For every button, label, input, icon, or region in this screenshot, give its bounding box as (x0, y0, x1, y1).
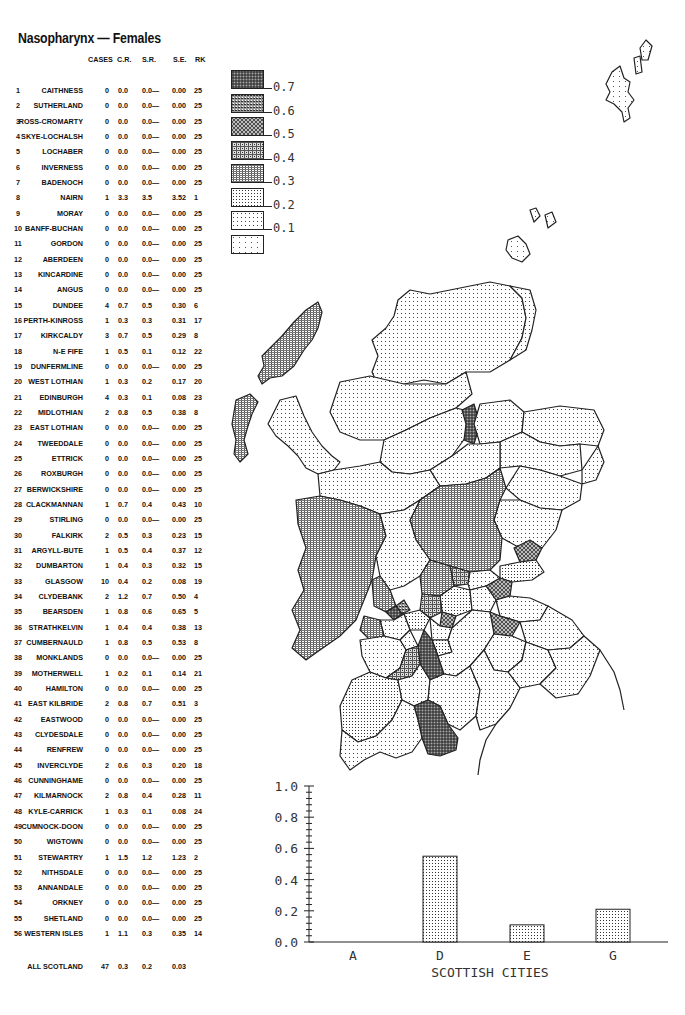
cell-cases: 0 (99, 837, 109, 846)
cell-cr: 0.0 (118, 255, 128, 264)
cell-num: 27 (10, 485, 26, 494)
cell-cases: 0 (99, 132, 109, 141)
cell-rk: 25 (194, 255, 202, 264)
cell-cr: 0.3 (118, 807, 128, 816)
cell-cr: 1.2 (118, 592, 128, 601)
cell-cases: 1 (99, 347, 109, 356)
cell-rk: 21 (194, 669, 202, 678)
table-row: 54ORKNEY00.00.0—0.0025 (0, 898, 220, 910)
cell-cases: 0 (99, 362, 109, 371)
cell-se: 0.00 (172, 730, 186, 739)
cell-num: 8 (10, 193, 26, 202)
cell-name: DUNDEE (53, 301, 83, 310)
cell-rk: 25 (194, 132, 202, 141)
cell-cr: 0.5 (118, 546, 128, 555)
table-row: 23EAST LOTHIAN00.00.0—0.0025 (0, 423, 220, 435)
cell-rk: 25 (194, 883, 202, 892)
cell-se: 0.00 (172, 715, 186, 724)
cell-cr: 0.4 (118, 623, 128, 632)
y-tick-label: 0.8 (275, 810, 298, 825)
cell-se: 0.00 (172, 485, 186, 494)
cell-se: 0.00 (172, 868, 186, 877)
cell-rk: 6 (194, 301, 198, 310)
cell-cr: 0.8 (118, 699, 128, 708)
cell-sr: 0.0— (142, 914, 159, 923)
cell-cases: 0 (99, 285, 109, 294)
cell-se: 0.00 (172, 439, 186, 448)
cell-rk: 5 (194, 607, 198, 616)
table-row: 36STRATHKELVIN10.40.40.3813 (0, 623, 220, 635)
cell-cases: 1 (99, 669, 109, 678)
cell-name: SKYE-LOCHALSH (21, 132, 83, 141)
cell-se: 0.31 (172, 316, 186, 325)
cell-cases: 0 (99, 469, 109, 478)
cell-cr: 0.0 (118, 101, 128, 110)
cell-num: 47 (10, 791, 26, 800)
cell-rk: 25 (194, 868, 202, 877)
cell-rk: 24 (194, 807, 202, 816)
cell-se: 0.08 (172, 393, 186, 402)
table-row: 26ROXBURGH00.00.0—0.0025 (0, 469, 220, 481)
cell-sr: 0.1 (142, 669, 152, 678)
cell-sr: 0.0— (142, 515, 159, 524)
cell-cr: 0.0 (118, 898, 128, 907)
region-orkney (506, 236, 530, 262)
cell-rk: 25 (194, 914, 202, 923)
table-row: 18N-E FIFE10.50.10.1222 (0, 347, 220, 359)
cell-sr: 0.4 (142, 546, 152, 555)
cell-name: INVERCLYDE (37, 761, 83, 770)
table-row: 43CLYDESDALE00.00.0—0.0025 (0, 730, 220, 742)
cell-se: 0.23 (172, 531, 186, 540)
cell-cases: 1 (99, 316, 109, 325)
cell-name: GLASGOW (45, 577, 83, 586)
table-row: 39MOTHERWELL10.20.10.1421 (0, 669, 220, 681)
cell-cr: 0.0 (118, 270, 128, 279)
cell-cases: 0 (99, 745, 109, 754)
cell-num: 19 (10, 362, 26, 371)
cell-cases: 0 (99, 439, 109, 448)
cell-sr: 0.0— (142, 132, 159, 141)
cell-name: MONKLANDS (36, 653, 83, 662)
cell-sr: 0.3 (142, 316, 152, 325)
x-tick-label: A (349, 948, 357, 963)
cell-se: 0.08 (172, 807, 186, 816)
cell-sr: 0.0— (142, 715, 159, 724)
table-row: 9MORAY00.00.0—0.0025 (0, 209, 220, 221)
cell-rk: 25 (194, 285, 202, 294)
cell-num: 10 (10, 224, 26, 233)
region-aberdeen (582, 446, 604, 484)
table-row: 40HAMILTON00.00.0—0.0025 (0, 684, 220, 696)
cell-se: 0.43 (172, 500, 186, 509)
cell-cases: 0 (99, 270, 109, 279)
cell-cr: 0.0 (118, 914, 128, 923)
cell-cr: 0.8 (118, 408, 128, 417)
cell-name: GORDON (51, 239, 83, 248)
cell-name: STIRLING (49, 515, 83, 524)
cell-num: 28 (10, 500, 26, 509)
cell-cr: 0.0 (118, 423, 128, 432)
cell-name: MOTHERWELL (32, 669, 83, 678)
cell-cases: 2 (99, 408, 109, 417)
cell-sr: 0.4 (142, 500, 152, 509)
cell-num: 48 (10, 807, 26, 816)
cell-rk: 20 (194, 377, 202, 386)
cell-cr: 0.3 (118, 393, 128, 402)
header-se: S.E. (173, 55, 187, 64)
cell-sr: 0.4 (142, 623, 152, 632)
page-title: Nasopharynx — Females (18, 30, 161, 46)
cell-num: 50 (10, 837, 26, 846)
cell-rk: 25 (194, 86, 202, 95)
cell-cases: 1 (99, 929, 109, 938)
cell-rk: 8 (194, 408, 198, 417)
cell-sr: 0.0— (142, 224, 159, 233)
cell-name: EAST KILBRIDE (28, 699, 83, 708)
cell-se: 0.12 (172, 347, 186, 356)
cell-se: 0.28 (172, 791, 186, 800)
cell-cr: 0.0 (118, 285, 128, 294)
cell-rk: 25 (194, 362, 202, 371)
cell-name: WIGTOWN (47, 837, 83, 846)
y-tick-label: 1.0 (275, 779, 298, 794)
cell-cr: 0.5 (118, 347, 128, 356)
cell-num: 9 (10, 209, 26, 218)
cell-name: CLYDESDALE (35, 730, 83, 739)
